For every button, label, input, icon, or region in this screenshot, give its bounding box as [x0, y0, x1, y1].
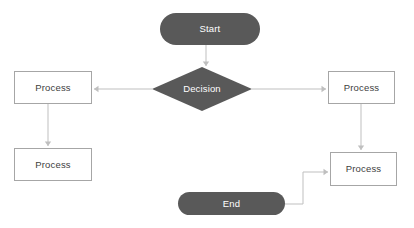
node-decision[interactable]: Decision — [152, 67, 252, 111]
arrowhead — [203, 62, 209, 67]
flowchart-canvas: StartDecisionProcessProcessProcessProces… — [0, 0, 414, 228]
connector-decision-to-process-left — [94, 86, 152, 92]
node-process_bottom_right[interactable]: Process — [330, 152, 397, 186]
arrowhead — [322, 86, 327, 92]
node-process_left[interactable]: Process — [14, 71, 92, 104]
arrowhead — [45, 142, 51, 147]
node-process_right[interactable]: Process — [328, 71, 395, 104]
connector-start-to-decision — [203, 45, 209, 66]
node-label-process_bottom_right: Process — [346, 164, 381, 174]
node-label-end: End — [223, 199, 240, 209]
connector-decision-to-process-right — [252, 86, 326, 92]
connector-line — [285, 172, 328, 204]
connector-end-to-process-bottom-right — [285, 169, 328, 204]
arrowhead — [94, 86, 99, 92]
connector-process-right-to-process-bottom-right — [358, 104, 364, 150]
node-start[interactable]: Start — [160, 13, 260, 45]
arrowhead — [324, 169, 329, 175]
diamond-shape — [152, 67, 252, 111]
node-label-process_right: Process — [344, 83, 379, 93]
node-label-start: Start — [200, 24, 221, 34]
arrowhead — [358, 146, 364, 151]
node-end[interactable]: End — [178, 192, 285, 215]
node-label-process_bottom_left: Process — [35, 160, 70, 170]
node-label-process_left: Process — [35, 83, 70, 93]
node-process_bottom_left[interactable]: Process — [14, 148, 92, 181]
connector-process-left-to-process-bottom-left — [45, 104, 51, 146]
